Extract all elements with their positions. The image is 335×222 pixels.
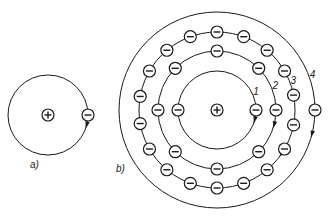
electron-minus-icon [261,44,273,56]
electron-minus-icon [288,119,300,131]
direction-arrow-icon [253,116,257,123]
electron-minus-icon [211,182,223,194]
electron-minus-icon [169,146,181,158]
electron-minus-icon [184,31,196,43]
electron-minus-icon [279,143,291,155]
electron-minus-icon [261,164,273,176]
electron-minus-icon [238,177,250,189]
electron-minus-icon [172,104,184,116]
direction-arrow-icon [85,121,89,128]
electron-minus-icon [211,163,223,175]
direction-arrow-icon [311,130,315,137]
panel-a-hydrogen-atom [8,75,94,155]
atom-model-diagram: 1234 a) b) [0,0,335,222]
electron-minus-icon [169,62,181,74]
electron-minus-icon [238,31,250,43]
shell-number-label: 4 [310,69,316,80]
electron-minus-icon [82,109,94,121]
direction-arrow-icon [273,121,277,128]
electron-minus-icon [152,104,164,116]
panel-a-label: a) [30,159,39,170]
electron-minus-icon [161,44,173,56]
shell-number-label: 2 [271,80,278,91]
electron-minus-icon [211,45,223,57]
electron-minus-icon [253,146,265,158]
electron-minus-icon [134,118,146,130]
nucleus-plus-icon [42,109,54,121]
nucleus-plus-icon [211,104,223,116]
electron-minus-icon [250,104,262,116]
electron-minus-icon [143,65,155,77]
electron-minus-icon [309,104,321,116]
electron-minus-icon [161,164,173,176]
shell-number-label: 1 [253,86,259,97]
electron-minus-icon [211,26,223,38]
electron-minus-icon [184,177,196,189]
electron-minus-icon [134,90,146,102]
electron-minus-icon [279,65,291,77]
shell-number-label: 3 [291,75,297,86]
electron-minus-icon [288,89,300,101]
electron-minus-icon [143,143,155,155]
panel-b-multi-shell-atom: 1234 [119,12,321,208]
electron-minus-icon [270,104,282,116]
panel-b-label: b) [116,163,125,174]
electron-minus-icon [253,62,265,74]
